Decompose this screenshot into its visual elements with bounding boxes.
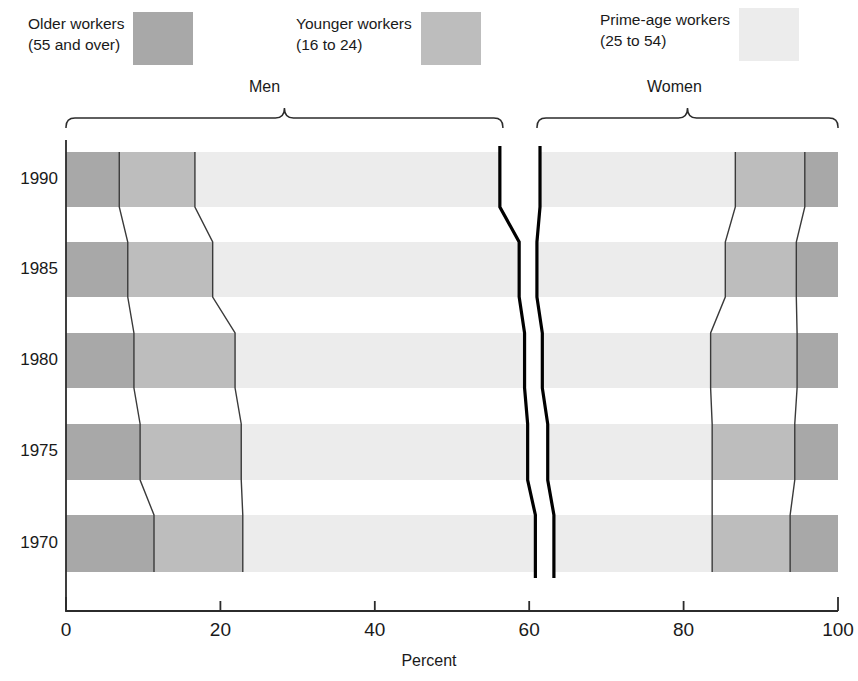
bar-segment-men-younger-1970 [154, 515, 243, 572]
bar-segment-men-prime-1975 [241, 424, 527, 480]
bar-segment-women-older-1970 [790, 515, 838, 572]
year-label-1980: 1980 [2, 350, 58, 370]
bar-segment-women-younger-1970 [712, 515, 790, 572]
bar-segment-men-prime-1970 [243, 515, 536, 572]
bar-segment-women-prime-1985 [537, 242, 725, 297]
bar-segment-women-younger-1990 [735, 152, 804, 207]
x-tick-label-100: 100 [808, 619, 858, 641]
bar-segment-men-older-1985 [66, 242, 128, 297]
bar-segment-men-older-1990 [66, 152, 119, 207]
bar-segment-women-prime-1980 [542, 333, 710, 388]
x-axis-title: Percent [0, 652, 858, 670]
bar-segment-men-younger-1985 [128, 242, 213, 297]
year-label-1990: 1990 [2, 169, 58, 189]
bar-segment-women-younger-1975 [712, 424, 795, 480]
bar-segment-women-younger-1985 [725, 242, 796, 297]
bar-segment-men-older-1975 [66, 424, 140, 480]
bar-segment-men-prime-1980 [235, 333, 525, 388]
bar-segment-men-younger-1975 [140, 424, 241, 480]
bar-segment-women-prime-1990 [540, 152, 735, 207]
bar-segment-women-older-1985 [796, 242, 838, 297]
year-label-1970: 1970 [2, 533, 58, 553]
bar-segment-men-prime-1990 [195, 152, 500, 207]
year-label-1985: 1985 [2, 259, 58, 279]
x-tick-label-0: 0 [36, 619, 96, 641]
x-tick-label-20: 20 [190, 619, 250, 641]
bar-segment-men-older-1980 [66, 333, 134, 388]
bar-segment-men-prime-1985 [213, 242, 519, 297]
bar-segment-men-older-1970 [66, 515, 154, 572]
bar-segment-women-prime-1970 [554, 515, 712, 572]
bar-segment-women-younger-1980 [711, 333, 797, 388]
year-label-1975: 1975 [2, 441, 58, 461]
bar-segment-men-younger-1990 [119, 152, 195, 207]
chart-canvas [0, 0, 858, 681]
bar-segment-men-younger-1980 [134, 333, 235, 388]
x-tick-label-60: 60 [499, 619, 559, 641]
bar-segment-women-prime-1975 [548, 424, 712, 480]
x-tick-label-80: 80 [654, 619, 714, 641]
bar-segment-women-older-1975 [795, 424, 838, 480]
x-tick-label-40: 40 [345, 619, 405, 641]
bar-segment-women-older-1980 [797, 333, 838, 388]
bar-segment-women-older-1990 [805, 152, 838, 207]
chart-plot-area: 19901985198019751970 020406080100 Percen… [0, 0, 858, 681]
